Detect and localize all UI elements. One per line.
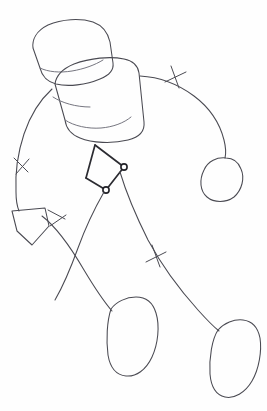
torso-inner-base-line <box>65 117 131 128</box>
left-foot-outline <box>107 297 158 376</box>
head-outline <box>33 20 113 86</box>
pelvis-bar-upper <box>95 145 124 167</box>
sketch-canvas <box>0 0 267 411</box>
pelvis-bar-left <box>86 145 95 178</box>
right-arm-elbow-tick-stroke-b <box>165 72 186 82</box>
legs-group <box>42 172 219 331</box>
left-arm-line <box>16 89 52 211</box>
left-leg-inner-line <box>55 192 104 300</box>
left-leg-outer-line <box>42 216 112 311</box>
pelvis-bar-right <box>106 167 124 190</box>
hip-joint-upper-dot <box>121 164 127 170</box>
pelvis-group <box>86 145 127 193</box>
hands-group <box>12 158 243 245</box>
arms-group <box>16 76 226 211</box>
head-group <box>33 20 113 86</box>
torso-outline <box>55 58 144 143</box>
right-arm-line <box>140 76 226 158</box>
torso-group <box>53 58 144 143</box>
left-hand-outline <box>12 208 49 245</box>
figure-drawing <box>0 0 267 411</box>
right-foot-outline <box>210 320 261 398</box>
head-inner-ellipse-line <box>40 60 103 72</box>
right-leg-line <box>120 172 219 331</box>
left-wrist-tick-stroke-b <box>50 215 66 226</box>
right-hand-outline <box>201 158 243 202</box>
feet-group <box>107 297 261 397</box>
